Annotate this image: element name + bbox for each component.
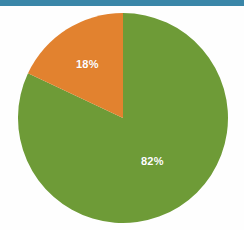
pie-slice-label-orange: 18% <box>76 58 99 70</box>
pie-slice-label-green: 82% <box>141 155 164 167</box>
pie-chart: 18% 82% <box>0 0 244 230</box>
slide-canvas: 18% 82% <box>0 0 244 230</box>
pie-chart-svg <box>0 0 244 230</box>
